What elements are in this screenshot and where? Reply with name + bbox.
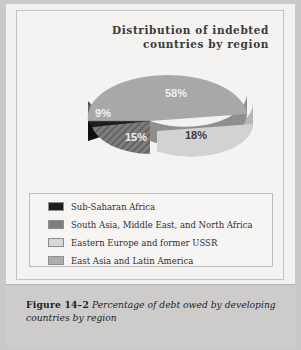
pie-chart: 58% 18% 15% 9% (17, 59, 285, 187)
figure-caption-band: Figure 14–2 Percentage of debt owed by d… (6, 284, 295, 346)
legend-label: Sub-Saharan Africa (71, 202, 155, 212)
figure-caption: Figure 14–2 Percentage of debt owed by d… (26, 298, 278, 324)
legend-item-eastern-europe-ussr: Eastern Europe and former USSR (48, 235, 272, 250)
figure-area: Distribution of indebted countries by re… (6, 4, 295, 346)
legend-swatch-icon (48, 220, 64, 229)
legend-item-east-asia-latin-america: East Asia and Latin America (48, 253, 272, 268)
pie-label-58: 58% (165, 87, 187, 99)
chart-title-line-2: countries by region (69, 37, 269, 51)
pie-chart-svg: 58% 18% 15% 9% (26, 59, 276, 187)
pie-label-15: 15% (125, 131, 147, 143)
pie-label-18: 18% (185, 129, 207, 141)
figure-number: Figure 14–2 (26, 299, 89, 310)
chart-title-line-1: Distribution of indebted (69, 23, 269, 37)
pie-label-9: 9% (95, 107, 111, 119)
legend-label: Eastern Europe and former USSR (71, 238, 217, 248)
legend-swatch-icon (48, 256, 64, 265)
legend-swatch-icon (48, 238, 64, 247)
legend-label: South Asia, Middle East, and North Afric… (71, 220, 253, 230)
chart-legend: Sub-Saharan Africa South Asia, Middle Ea… (29, 193, 273, 267)
legend-item-sub-saharan-africa: Sub-Saharan Africa (48, 199, 272, 214)
chart-panel: Distribution of indebted countries by re… (16, 10, 284, 280)
legend-item-south-asia-mideast-nafrica: South Asia, Middle East, and North Afric… (48, 217, 272, 232)
caption-divider (6, 284, 295, 285)
legend-label: East Asia and Latin America (71, 256, 193, 266)
chart-title: Distribution of indebted countries by re… (69, 23, 269, 51)
figure-page: Distribution of indebted countries by re… (0, 0, 301, 350)
legend-swatch-icon (48, 202, 64, 211)
